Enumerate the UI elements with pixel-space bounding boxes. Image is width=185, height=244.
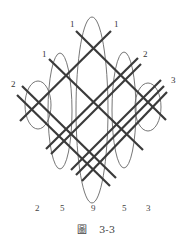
count-place-2: 5: [60, 203, 65, 213]
label-right-digit-2: 2: [143, 49, 148, 59]
label-right-digit-1: 1: [114, 19, 119, 29]
multiplication-line-diagram: 2 1 1 1 2 3 2 5 9 5 3 圖 3-3: [0, 0, 185, 244]
count-place-4: 5: [122, 203, 127, 213]
line-left-digit3-a: [22, 86, 116, 178]
ellipse-place-1: [25, 81, 51, 129]
ellipse-place-5: [135, 83, 161, 131]
count-place-5: 3: [146, 203, 151, 213]
figure-caption: 圖 3-3: [77, 224, 115, 235]
label-left-digit-1-top: 1: [70, 19, 75, 29]
caption-number: 3-3: [99, 224, 115, 235]
label-right-digit-3: 3: [171, 75, 176, 85]
label-left-digit-2: 2: [11, 79, 16, 89]
count-place-1: 2: [35, 203, 40, 213]
top-digit-labels: 2 1 1 1 2 3: [11, 19, 176, 89]
label-left-digit-1-mid: 1: [42, 49, 47, 59]
line-left-digit2-a: [49, 59, 143, 150]
caption-prefix: 圖: [77, 224, 87, 235]
intersection-counts: 2 5 9 5 3: [35, 203, 151, 213]
count-place-3: 9: [91, 203, 96, 213]
